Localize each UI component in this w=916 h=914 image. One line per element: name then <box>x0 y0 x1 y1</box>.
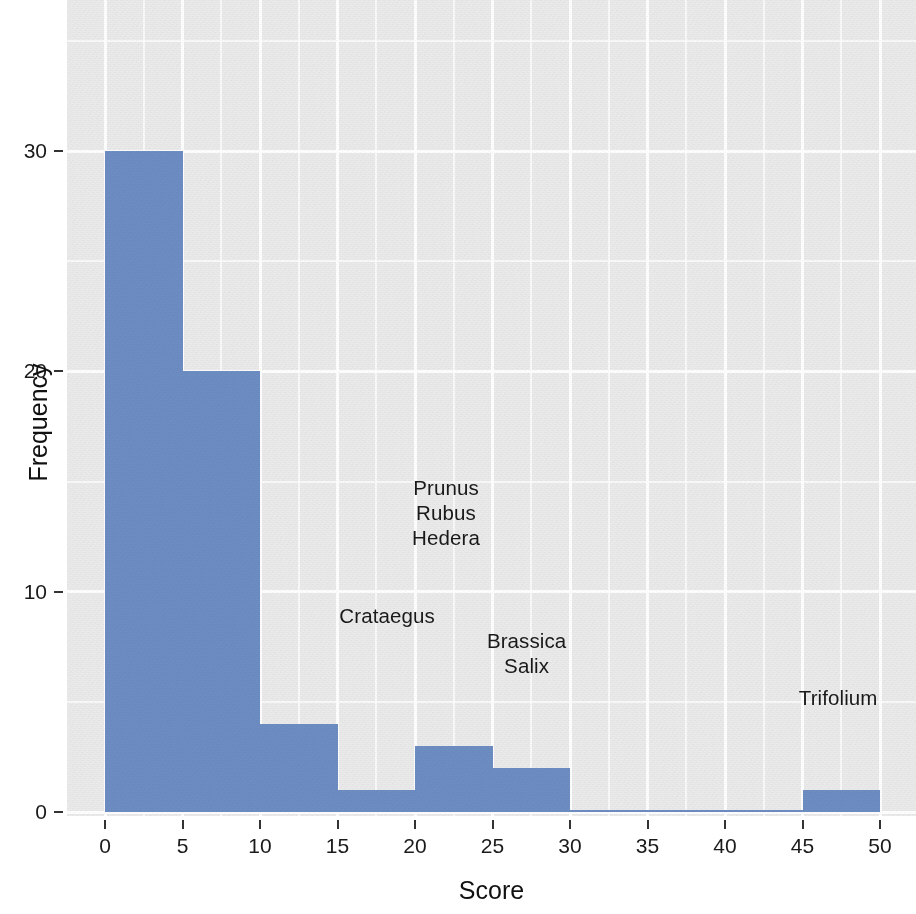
x-axis-title: Score <box>67 876 916 905</box>
x-axis-tick <box>647 820 649 829</box>
gridline-minor-horizontal <box>67 40 916 42</box>
annotation-line: Brassica <box>487 628 566 653</box>
gridline-major-vertical <box>336 0 339 816</box>
x-axis-tick <box>802 820 804 829</box>
histogram-bar <box>803 790 881 812</box>
x-axis-tick-label: 40 <box>713 834 736 858</box>
x-axis-tick-label: 45 <box>791 834 814 858</box>
plot-annotation-label: Crataegus <box>339 603 434 628</box>
x-axis-tick <box>104 820 106 829</box>
y-axis-tick-label: 0 <box>0 800 47 824</box>
histogram-bar <box>260 724 338 812</box>
x-axis-tick-label: 5 <box>177 834 189 858</box>
gridline-minor-vertical <box>685 0 687 816</box>
gridline-minor-vertical <box>375 0 377 816</box>
x-axis-tick <box>414 820 416 829</box>
histogram-bar <box>493 768 571 812</box>
gridline-major-vertical <box>569 0 572 816</box>
gridline-minor-vertical <box>763 0 765 816</box>
annotation-line: Hedera <box>412 525 480 550</box>
x-axis-tick-label: 20 <box>403 834 426 858</box>
histogram-bar <box>725 810 803 812</box>
x-axis-tick <box>724 820 726 829</box>
histogram-bar <box>105 151 183 812</box>
y-axis-tick <box>54 370 63 372</box>
x-axis-tick-label: 10 <box>248 834 271 858</box>
x-axis-tick <box>492 820 494 829</box>
annotation-line: Prunus <box>412 475 480 500</box>
gridline-major-vertical <box>724 0 727 816</box>
x-axis-tick-label: 30 <box>558 834 581 858</box>
annotation-line: Rubus <box>412 500 480 525</box>
x-axis-tick <box>879 820 881 829</box>
histogram-chart: PrunusRubusHederaCrataegusBrassicaSalixT… <box>0 0 916 914</box>
plot-annotation-label: PrunusRubusHedera <box>412 475 480 550</box>
gridline-major-vertical <box>414 0 417 816</box>
annotation-line: Salix <box>487 653 566 678</box>
annotation-line: Crataegus <box>339 603 434 628</box>
plot-panel: PrunusRubusHederaCrataegusBrassicaSalixT… <box>67 0 916 816</box>
gridline-minor-vertical <box>530 0 532 816</box>
plot-annotation-label: Trifolium <box>799 685 878 710</box>
x-axis-tick-label: 15 <box>326 834 349 858</box>
x-axis-tick-label: 25 <box>481 834 504 858</box>
y-axis-tick <box>54 811 63 813</box>
y-axis-tick <box>54 591 63 593</box>
x-axis-tick <box>182 820 184 829</box>
histogram-bar <box>415 746 493 812</box>
histogram-bar <box>570 810 648 812</box>
x-axis-tick <box>569 820 571 829</box>
x-axis-tick <box>259 820 261 829</box>
annotation-line: Trifolium <box>799 685 878 710</box>
gridline-minor-vertical <box>608 0 610 816</box>
plot-annotation-label: BrassicaSalix <box>487 628 566 678</box>
gridline-minor-vertical <box>298 0 300 816</box>
x-axis-tick-label: 0 <box>99 834 111 858</box>
histogram-bar <box>338 790 416 812</box>
gridline-major-vertical <box>879 0 882 816</box>
y-axis-tick <box>54 150 63 152</box>
x-axis-tick <box>337 820 339 829</box>
x-axis-tick-label: 35 <box>636 834 659 858</box>
gridline-minor-vertical <box>453 0 455 816</box>
x-axis-tick-label: 50 <box>868 834 891 858</box>
gridline-major-vertical <box>491 0 494 816</box>
histogram-bar <box>648 810 726 812</box>
gridline-minor-horizontal <box>67 260 916 262</box>
y-axis-title: Frequency <box>24 73 53 773</box>
gridline-major-vertical <box>646 0 649 816</box>
gridline-major-horizontal <box>67 150 916 153</box>
histogram-bar <box>183 371 261 812</box>
